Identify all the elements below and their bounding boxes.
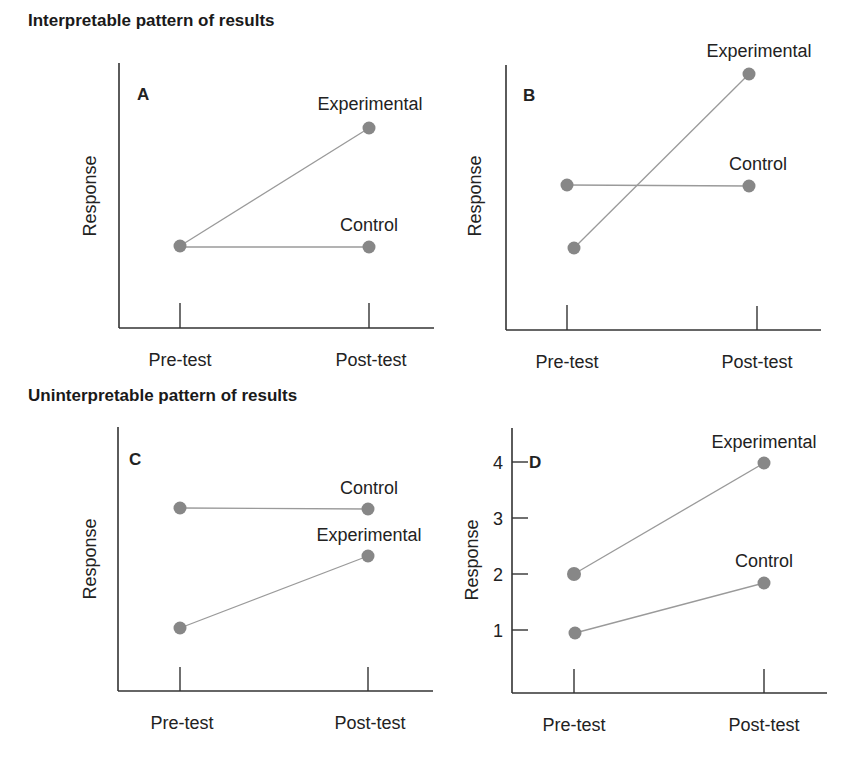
experimental-point-post — [363, 122, 376, 135]
y-tick-label-4: 4 — [493, 453, 503, 473]
control-line — [180, 508, 368, 509]
experimental-label: Experimental — [711, 432, 816, 452]
x-tick-label-post: Post-test — [721, 352, 792, 372]
figure-canvas: A Response Pre-test Post-test Experiment… — [0, 0, 857, 775]
x-tick-label-pre: Pre-test — [542, 715, 605, 735]
y-tick-label-3: 3 — [493, 509, 503, 529]
control-point-post — [743, 180, 756, 193]
experimental-point-post — [362, 550, 375, 563]
experimental-point-pre — [568, 242, 581, 255]
panel-c: C Response Pre-test Post-test Control Ex… — [80, 427, 433, 733]
control-line — [567, 185, 749, 186]
experimental-point-pre — [567, 567, 581, 581]
control-point-pre — [174, 502, 187, 515]
experimental-line — [574, 74, 749, 248]
experimental-line — [180, 556, 368, 628]
y-axis-label: Response — [465, 155, 485, 236]
data-point-pre — [174, 240, 187, 253]
x-tick-label-pre: Pre-test — [535, 352, 598, 372]
x-tick-label-post: Post-test — [335, 350, 406, 370]
x-tick-label-pre: Pre-test — [150, 713, 213, 733]
x-tick-label-post: Post-test — [728, 715, 799, 735]
x-tick-label-post: Post-test — [334, 713, 405, 733]
y-axis-label: Response — [462, 519, 482, 600]
experimental-point-post — [743, 68, 756, 81]
y-axis-label: Response — [80, 518, 100, 599]
control-label: Control — [729, 154, 787, 174]
panel-b: B Response Pre-test Post-test Experiment… — [465, 41, 821, 372]
experimental-label: Experimental — [317, 94, 422, 114]
x-tick-label-pre: Pre-test — [148, 350, 211, 370]
experimental-point-pre — [174, 622, 187, 635]
panel-d: 4 3 2 1 D Response Pre-test Post-test Ex… — [462, 428, 827, 735]
experimental-label: Experimental — [706, 41, 811, 61]
experimental-label: Experimental — [316, 525, 421, 545]
control-point-pre — [569, 627, 582, 640]
control-label: Control — [340, 215, 398, 235]
panel-letter: C — [129, 450, 141, 469]
control-point-post — [363, 241, 376, 254]
panel-a: A Response Pre-test Post-test Experiment… — [80, 63, 434, 370]
y-tick-label-2: 2 — [493, 565, 503, 585]
control-label: Control — [735, 551, 793, 571]
y-axis-label: Response — [80, 155, 100, 236]
control-point-pre — [561, 179, 574, 192]
control-line — [575, 583, 764, 633]
experimental-point-post — [758, 457, 771, 470]
y-tick-label-1: 1 — [493, 621, 503, 641]
control-point-post — [362, 503, 375, 516]
panel-letter: D — [529, 453, 541, 472]
control-label: Control — [340, 478, 398, 498]
panel-letter: A — [137, 85, 149, 104]
panel-letter: B — [523, 86, 535, 105]
control-point-post — [758, 577, 771, 590]
